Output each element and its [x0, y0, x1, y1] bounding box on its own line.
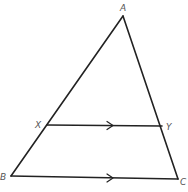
side-ac [123, 16, 178, 179]
diagram-canvas: A B C X Y [0, 0, 188, 192]
label-y: Y [166, 122, 173, 132]
side-bc [11, 176, 178, 179]
label-b: B [0, 172, 6, 182]
triangle-diagram: A B C X Y [0, 0, 188, 192]
label-a: A [119, 3, 126, 13]
label-c: C [180, 177, 187, 187]
label-x: X [34, 120, 42, 130]
segment-xy [47, 125, 162, 126]
side-ab [11, 16, 123, 176]
